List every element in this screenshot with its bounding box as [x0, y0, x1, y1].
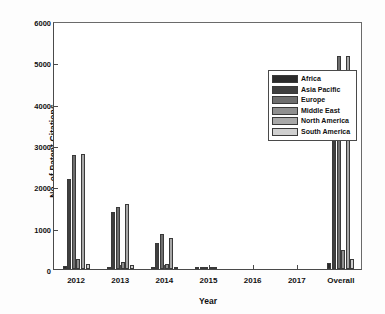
y-tick-label: 2000 [21, 184, 51, 193]
bar [81, 154, 85, 269]
y-tick-label: 1000 [21, 225, 51, 234]
x-axis-label: Year [53, 296, 363, 306]
y-tick-label: 0 [21, 267, 51, 276]
legend-swatch [272, 96, 298, 104]
y-tick-mark [54, 147, 58, 148]
legend-label: North America [301, 117, 349, 125]
bar [130, 265, 134, 269]
legend-label: Middle East [301, 107, 340, 115]
bar [155, 243, 159, 269]
x-tick-mark [253, 265, 254, 269]
legend-label: Africa [301, 75, 321, 83]
y-tick-mark [54, 106, 58, 107]
legend-item: Middle East [272, 106, 353, 117]
y-tick-mark [54, 64, 58, 65]
bar [200, 267, 204, 269]
bar [204, 267, 208, 269]
bar [327, 263, 331, 269]
bar [341, 250, 345, 269]
bar [121, 262, 125, 269]
y-tick-label: 4000 [21, 101, 51, 110]
bar [160, 234, 164, 269]
plot-area: 0100020003000400050006000 20122013201420… [53, 22, 362, 270]
bar [107, 267, 111, 269]
x-tick-label: Overall [311, 276, 371, 285]
legend-swatch [272, 128, 298, 136]
legend-label: South America [301, 128, 350, 136]
bar [169, 238, 173, 269]
legend-label: Europe [301, 96, 325, 104]
bar [76, 259, 80, 269]
bar [213, 267, 217, 269]
legend-item: South America [272, 127, 353, 138]
legend-swatch [272, 75, 298, 83]
legend-swatch [272, 117, 298, 125]
bar [116, 207, 120, 269]
bar [86, 264, 90, 269]
y-tick-mark [54, 230, 58, 231]
legend-item: Europe [272, 95, 353, 106]
legend-swatch [272, 86, 298, 94]
bar [63, 266, 67, 269]
x-tick-mark [297, 265, 298, 269]
bar [111, 212, 115, 269]
bar [125, 204, 129, 269]
legend-label: Asia Pacific [301, 86, 340, 94]
legend-item: Africa [272, 74, 353, 85]
y-tick-label: 6000 [21, 19, 51, 28]
bar [165, 264, 169, 269]
bar [151, 267, 155, 269]
bar [350, 259, 354, 269]
bar [72, 155, 76, 269]
y-tick-label: 5000 [21, 60, 51, 69]
bar [174, 267, 178, 269]
legend-item: North America [272, 116, 353, 127]
bar [209, 267, 213, 269]
bar [67, 179, 71, 269]
chart-figure: No. of Patent Citations Year 01000200030… [0, 0, 385, 314]
y-tick-mark [54, 188, 58, 189]
y-tick-label: 3000 [21, 143, 51, 152]
legend-item: Asia Pacific [272, 85, 353, 96]
legend-swatch [272, 107, 298, 115]
bar [195, 267, 199, 269]
chart-legend: AfricaAsia PacificEuropeMiddle EastNorth… [268, 70, 357, 141]
